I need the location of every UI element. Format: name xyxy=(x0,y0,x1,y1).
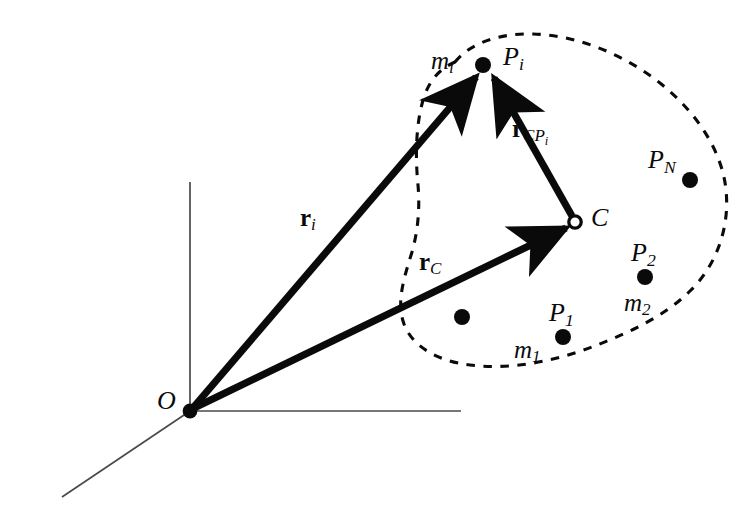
center-of-mass-label: C xyxy=(591,205,608,231)
particle-label-p-i: Pi xyxy=(503,44,524,73)
particle-marker-unlabeled xyxy=(454,309,470,325)
mass-label-m-i: mi xyxy=(431,48,454,76)
origin-label: O xyxy=(157,388,176,414)
vector-label-r-cp-i: rCPi xyxy=(512,116,548,147)
mass-label-m-2: m2 xyxy=(624,290,651,318)
vector-r-i xyxy=(192,77,476,409)
diagonal-axis xyxy=(62,411,190,497)
vector-label-r-i: ri xyxy=(300,205,316,233)
particle-marker-2 xyxy=(637,269,653,285)
particle-label-p-1: P1 xyxy=(549,300,574,329)
particle-marker-i xyxy=(475,57,491,73)
particle-label-p-n: PN xyxy=(648,147,676,176)
particle-marker-1 xyxy=(555,329,571,345)
center-of-mass-marker xyxy=(569,216,581,228)
diagram-canvas: O C Pi mi PN P2 m2 P1 m1 ri rC rCPi xyxy=(0,0,754,526)
vector-label-r-c: rC xyxy=(419,249,441,277)
particle-marker-N xyxy=(682,172,698,188)
particle-label-p-2: P2 xyxy=(631,240,656,269)
vector-r-c xyxy=(192,228,566,409)
mass-label-m-1: m1 xyxy=(514,337,541,365)
origin-marker xyxy=(183,404,198,419)
